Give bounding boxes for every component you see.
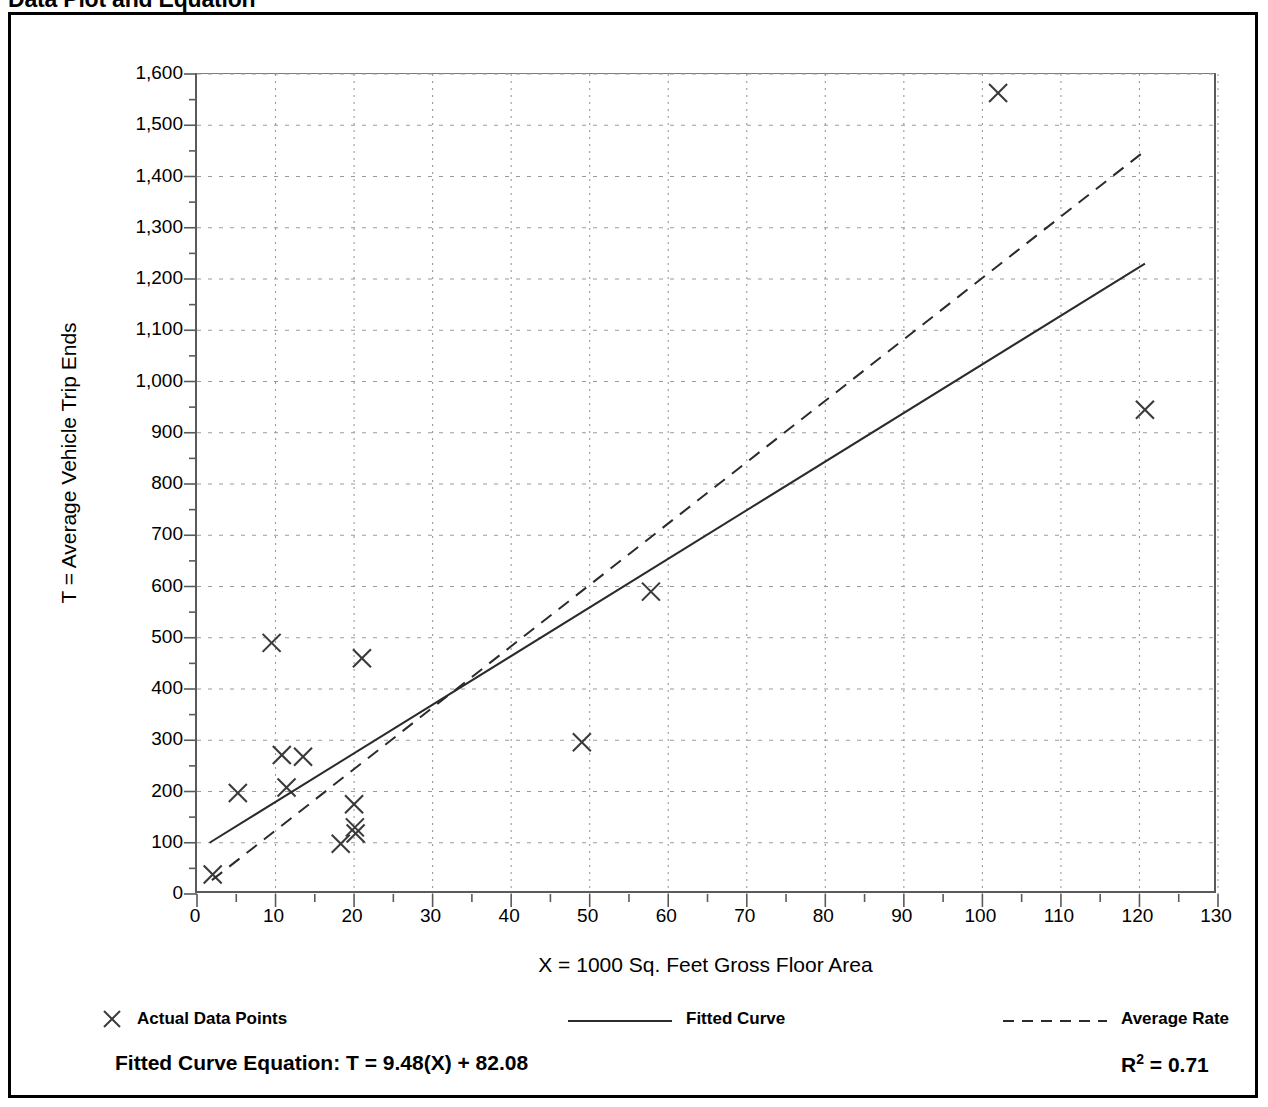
data-point-marker [332, 835, 350, 853]
data-point-marker [294, 748, 312, 766]
y-tick-label: 1,200 [135, 267, 183, 289]
data-point-marker [273, 746, 291, 764]
r-squared-number: = 0.71 [1144, 1053, 1209, 1076]
y-axis-title: T = Average Vehicle Trip Ends [57, 113, 81, 813]
y-tick-label: 1,400 [135, 165, 183, 187]
data-point-marker [278, 778, 296, 796]
data-point-marker [229, 784, 247, 802]
y-tick-label: 1,000 [135, 370, 183, 392]
legend-item: Average Rate [1003, 1003, 1229, 1035]
x-tick-label: 120 [1122, 905, 1154, 927]
x-tick-label: 130 [1200, 905, 1232, 927]
legend-label: Fitted Curve [686, 1009, 785, 1029]
x-tick-label: 50 [577, 905, 598, 927]
figure-page: Data Plot and Equation 01002003004005006… [0, 0, 1268, 1107]
y-tick-label: 0 [172, 882, 183, 904]
y-tick-label: 1,600 [135, 62, 183, 84]
data-point-marker [642, 583, 660, 601]
y-tick-label: 700 [151, 523, 183, 545]
x-tick-label: 20 [341, 905, 362, 927]
legend-label: Actual Data Points [137, 1009, 287, 1029]
data-point-marker [573, 733, 591, 751]
x-axis-title: X = 1000 Sq. Feet Gross Floor Area [195, 953, 1216, 977]
x-tick-label: 60 [656, 905, 677, 927]
x-tick-label: 30 [420, 905, 441, 927]
y-tick-label: 100 [151, 831, 183, 853]
legend-item: Fitted Curve [568, 1003, 785, 1035]
figure-frame: 01002003004005006007008009001,0001,1001,… [8, 12, 1258, 1098]
x-tick-label: 40 [499, 905, 520, 927]
x-marker-icon [101, 1008, 123, 1030]
y-tick-label: 200 [151, 780, 183, 802]
x-tick-label: 80 [813, 905, 834, 927]
y-tick-label: 400 [151, 677, 183, 699]
r-squared-prefix: R [1121, 1053, 1136, 1076]
x-tick-label: 90 [891, 905, 912, 927]
y-tick-label: 900 [151, 421, 183, 443]
dashed-line-icon [1003, 1013, 1107, 1025]
average-rate-line [212, 151, 1145, 880]
y-tick-label: 600 [151, 575, 183, 597]
y-tick-label: 800 [151, 472, 183, 494]
y-tick-label: 300 [151, 728, 183, 750]
data-point-marker [353, 649, 371, 667]
y-axis-tick-labels: 01002003004005006007008009001,0001,1001,… [71, 73, 183, 893]
fitted-curve-equation: Fitted Curve Equation: T = 9.48(X) + 82.… [115, 1051, 528, 1075]
fitted-curve-line [210, 264, 1145, 843]
x-axis-tick-labels: 0102030405060708090100110120130 [195, 905, 1216, 933]
plot-area [195, 73, 1216, 893]
data-point-marker [345, 795, 363, 813]
r-squared-value: R2 = 0.71 [1121, 1051, 1209, 1077]
equation-row: Fitted Curve Equation: T = 9.48(X) + 82.… [115, 1051, 1225, 1085]
y-tick-label: 1,100 [135, 318, 183, 340]
r-squared-exponent: 2 [1136, 1051, 1144, 1067]
x-tick-label: 10 [263, 905, 284, 927]
data-layer [197, 74, 1214, 891]
chart-legend: Actual Data PointsFitted CurveAverage Ra… [101, 1003, 1201, 1035]
y-tick-label: 1,500 [135, 113, 183, 135]
y-tick-label: 1,300 [135, 216, 183, 238]
solid-line-icon [568, 1013, 672, 1025]
x-tick-label: 0 [190, 905, 201, 927]
x-tick-label: 110 [1044, 905, 1074, 927]
legend-item: Actual Data Points [101, 1003, 287, 1035]
x-tick-label: 70 [734, 905, 755, 927]
data-point-marker [1136, 401, 1154, 419]
y-tick-label: 500 [151, 626, 183, 648]
legend-label: Average Rate [1121, 1009, 1229, 1029]
data-point-marker [989, 84, 1007, 102]
x-tick-label: 100 [965, 905, 997, 927]
data-point-marker [263, 634, 281, 652]
